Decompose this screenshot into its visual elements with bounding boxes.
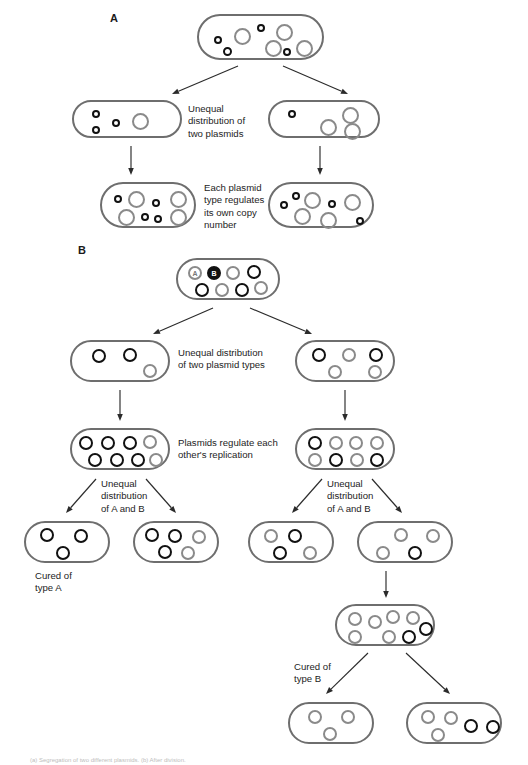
cell-a-parent — [197, 14, 324, 60]
cell-b-left-daughter — [70, 340, 170, 382]
plasmid-black — [370, 453, 384, 467]
note-unequal-two-types: Unequal distribution of two plasmid type… — [178, 347, 290, 372]
plasmid-dot — [223, 47, 232, 56]
plasmid-tagb: B — [207, 266, 221, 280]
plasmid-gray — [344, 194, 361, 211]
arrow-a-right-down — [310, 136, 330, 185]
plasmid-gray — [328, 365, 342, 379]
plasmid-black — [74, 529, 88, 543]
plasmid-dot — [288, 110, 296, 118]
plasmid-gray — [170, 209, 187, 226]
plasmid-black — [419, 622, 433, 636]
plasmid-gray — [344, 123, 361, 140]
cell-b-right-daughter — [295, 340, 395, 382]
plasmid-gray — [348, 612, 362, 626]
arrow-b-right-down — [335, 380, 355, 431]
plasmid-black — [145, 528, 159, 542]
arrow-a-left-down — [121, 136, 141, 185]
arrow-b-l-split-left — [56, 469, 106, 523]
cell-a-right-daughter — [268, 100, 380, 138]
plasmid-black — [308, 436, 322, 450]
arrow-b-mixed3-down — [376, 561, 396, 608]
plasmid-gray — [254, 281, 268, 295]
plasmid-tag-b: B — [209, 268, 219, 278]
plasmid-black — [88, 453, 102, 467]
note-unequal-ab-right: Unequal distribution of A and B — [327, 478, 389, 515]
plasmid-gray — [265, 40, 282, 57]
note-cured-of-type-b: Cured of type B — [294, 661, 364, 686]
figure-caption: (a) Segregation of two different plasmid… — [30, 756, 500, 764]
plasmid-dot — [283, 48, 291, 56]
plasmid-gray — [308, 710, 322, 724]
plasmid-gray — [215, 283, 229, 297]
plasmid-black — [312, 348, 326, 362]
plasmid-black — [288, 529, 302, 543]
plasmid-gray — [320, 212, 337, 229]
plasmid-dot — [152, 199, 160, 207]
cell-b-final-mixed — [406, 702, 502, 744]
note-cured-of-type-a: Cured of type A — [35, 570, 105, 595]
plasmid-dot — [328, 200, 336, 208]
plasmid-gray — [296, 40, 313, 57]
plasmid-dot — [214, 36, 222, 44]
cell-a-left-daughter — [72, 100, 182, 138]
plasmid-gray — [192, 530, 206, 544]
plasmid-gray — [118, 209, 135, 226]
cell-b-expanded — [335, 604, 435, 646]
plasmid-gray — [143, 364, 157, 378]
plasmid-dot — [92, 126, 100, 134]
cell-b-mixed-3 — [357, 521, 453, 563]
plasmid-gray — [304, 192, 321, 209]
note-plasmids-regulate: Plasmids regulate each other's replicati… — [178, 437, 290, 462]
plasmid-black — [235, 283, 249, 297]
cell-b-left-grandchild — [70, 428, 170, 470]
plasmid-gray — [234, 28, 251, 45]
plasmid-dot — [292, 192, 300, 200]
plasmid-gray — [386, 610, 400, 624]
plasmid-black — [101, 436, 115, 450]
plasmid-gray — [370, 436, 384, 450]
plasmid-gray — [382, 630, 396, 644]
plasmid-black — [402, 630, 416, 644]
plasmid-black — [158, 545, 172, 559]
plasmid-gray — [426, 529, 440, 543]
arrow-a-split-right — [273, 56, 358, 104]
note-unequal-ab-left: Unequal distribution of A and B — [101, 478, 163, 515]
plasmid-black — [369, 348, 383, 362]
plasmid-black — [486, 720, 500, 734]
plasmid-gray — [350, 453, 364, 467]
note-unequal-two-plasmids: Unequal distribution of two plasmids — [188, 103, 270, 140]
plasmid-gray — [342, 107, 359, 124]
plasmid-dot — [141, 213, 149, 221]
plasmid-gray — [376, 546, 390, 560]
plasmid-dot — [114, 195, 122, 203]
arrow-b-final-right — [396, 643, 460, 704]
plasmid-gray — [143, 435, 157, 449]
plasmid-gray — [170, 191, 187, 208]
plasmid-gray — [349, 436, 363, 450]
plasmid-black — [168, 529, 182, 543]
cell-b-cured-a — [24, 521, 110, 563]
plasmid-dot — [257, 24, 265, 32]
plasmid-black — [123, 348, 137, 362]
plasmid-black — [110, 453, 124, 467]
plasmid-black — [40, 528, 54, 542]
plasmid-black — [273, 546, 287, 560]
plasmid-gray — [294, 208, 311, 225]
plasmid-gray — [368, 365, 382, 379]
plasmid-gray — [421, 710, 435, 724]
plasmid-dot — [112, 119, 120, 127]
plasmid-gray — [149, 453, 163, 467]
plasmid-black — [131, 453, 145, 467]
plasmid-gray — [132, 113, 149, 130]
plasmid-black — [79, 436, 93, 450]
cell-b-parent: AB — [176, 258, 280, 300]
cell-a-left-grandchild — [100, 182, 196, 228]
plasmid-gray — [342, 348, 356, 362]
plasmid-gray — [320, 119, 337, 136]
plasmid-segregation-figure: ABABUnequal distribution of two plasmids… — [0, 0, 528, 765]
cell-b-mixed-1 — [133, 521, 219, 563]
plasmid-gray — [276, 24, 293, 41]
plasmid-black — [123, 436, 137, 450]
plasmid-black — [195, 283, 209, 297]
